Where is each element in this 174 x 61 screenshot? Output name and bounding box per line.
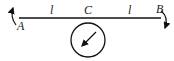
moment-arrow-a-icon	[12, 8, 16, 25]
label-c: C	[84, 3, 93, 17]
label-b: B	[156, 2, 164, 16]
radius-arrow-icon	[82, 32, 96, 46]
label-left-span: l	[50, 3, 54, 17]
beam-diagram: A l C l B	[0, 0, 174, 61]
label-right-span: l	[128, 3, 132, 17]
label-a: A	[16, 19, 25, 33]
